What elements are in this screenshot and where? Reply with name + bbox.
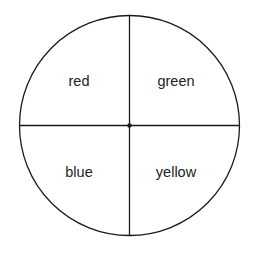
quadrant-label-red: red bbox=[69, 73, 90, 89]
diagram-canvas: red green blue yellow bbox=[0, 0, 256, 256]
quadrant-label-yellow: yellow bbox=[156, 164, 197, 180]
center-dot bbox=[127, 123, 131, 127]
quadrant-label-blue: blue bbox=[65, 164, 92, 180]
quadrant-label-green: green bbox=[157, 73, 194, 89]
quadrant-diagram: red green blue yellow bbox=[0, 0, 256, 256]
